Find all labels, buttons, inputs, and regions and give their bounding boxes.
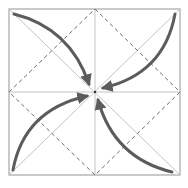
fold-diagram — [0, 0, 188, 188]
center-point — [94, 91, 96, 93]
